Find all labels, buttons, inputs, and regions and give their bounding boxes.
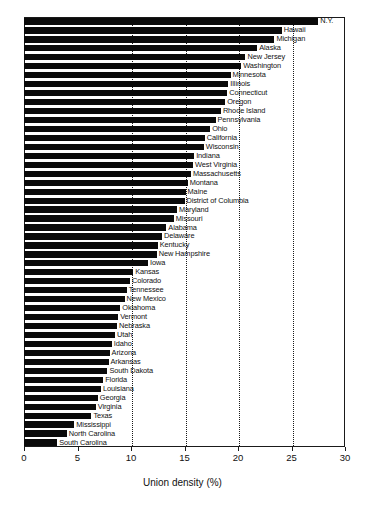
bar	[24, 323, 117, 329]
bar	[24, 45, 257, 51]
bar-label: Virginia	[98, 403, 122, 410]
bar	[24, 135, 205, 141]
bar	[24, 233, 162, 239]
bar-label: Wisconsin	[206, 143, 239, 150]
bar-label: South Dakota	[109, 367, 153, 374]
bar-label: Hawaii	[284, 26, 306, 33]
bar-label: Delaware	[164, 232, 194, 239]
bar-row	[24, 421, 345, 427]
bar-row	[24, 269, 345, 275]
bar	[24, 189, 186, 195]
bar	[24, 278, 130, 284]
bar-label: Arkansas	[111, 358, 141, 365]
bar-label: Tennessee	[129, 286, 164, 293]
bar-row	[24, 296, 345, 302]
bar-label: Maine	[188, 188, 208, 195]
bar-row	[24, 72, 345, 78]
bar	[24, 269, 133, 275]
bar-label: Alaska	[259, 44, 281, 51]
bar-row	[24, 171, 345, 177]
bar	[24, 180, 188, 186]
bar-row	[24, 404, 345, 410]
bar-label: Iowa	[150, 259, 165, 266]
bar	[24, 18, 318, 24]
bar-row	[24, 135, 345, 141]
bar-label: Missouri	[176, 215, 203, 222]
bar	[24, 81, 228, 87]
x-tick-mark-25	[292, 447, 293, 451]
bar-label: South Carolina	[59, 439, 107, 446]
bar-row	[24, 63, 345, 69]
x-tick-mark-20	[238, 447, 239, 451]
bar	[24, 368, 107, 374]
bar-row	[24, 350, 345, 356]
bar-label: Washington	[243, 62, 281, 69]
bar-label: Rhode Island	[223, 107, 265, 114]
x-tick-mark-15	[185, 447, 186, 451]
x-tick-label-20: 20	[233, 453, 244, 463]
bar-row	[24, 126, 345, 132]
bar-label: Mississippi	[76, 421, 111, 428]
bar	[24, 421, 74, 427]
bar-label: Oklahoma	[122, 304, 155, 311]
bar	[24, 350, 110, 356]
bar-label: Kansas	[135, 268, 159, 275]
bar	[24, 314, 118, 320]
bar	[24, 224, 166, 230]
bar-label: North Carolina	[69, 430, 115, 437]
bar-label: New Jersey	[247, 53, 285, 60]
bar	[24, 126, 210, 132]
bar-label: Indiana	[196, 152, 220, 159]
bar-label: Texas	[93, 412, 112, 419]
bar-row	[24, 117, 345, 123]
bar-label: New Hampshire	[159, 250, 210, 257]
bar-row	[24, 189, 345, 195]
bar-row	[24, 90, 345, 96]
x-axis-title: Union density (%)	[0, 477, 365, 488]
bar-row	[24, 54, 345, 60]
bar-label: Ohio	[212, 125, 227, 132]
bar-label: Idaho	[114, 340, 132, 347]
x-tick-label-10: 10	[126, 453, 137, 463]
bar-row	[24, 395, 345, 401]
bar	[24, 198, 185, 204]
x-tick-mark-5	[78, 447, 79, 451]
bar-label: Louisiana	[103, 385, 134, 392]
bar-label: N.Y.	[320, 17, 333, 24]
bar	[24, 242, 158, 248]
bar	[24, 171, 191, 177]
bar-label: Pennsylvania	[218, 116, 261, 123]
x-tick-label-0: 0	[21, 453, 26, 463]
bar-row	[24, 341, 345, 347]
bar-label: Nebraska	[119, 322, 150, 329]
bar	[24, 117, 216, 123]
x-tick-label-15: 15	[179, 453, 190, 463]
bar	[24, 144, 204, 150]
bar-label: Georgia	[100, 394, 126, 401]
bar-row	[24, 287, 345, 293]
bar	[24, 395, 98, 401]
bar-row	[24, 81, 345, 87]
bar	[24, 215, 174, 221]
bar-row	[24, 162, 345, 168]
bar	[24, 332, 115, 338]
bar-row	[24, 198, 345, 204]
x-tick-label-30: 30	[340, 453, 351, 463]
bar	[24, 430, 67, 436]
bar-label: Arizona	[112, 349, 136, 356]
bar-row	[24, 323, 345, 329]
bar-label: Utah	[117, 331, 132, 338]
bar-label: Oregon	[227, 98, 251, 105]
bar	[24, 90, 227, 96]
bar	[24, 260, 148, 266]
bar-row	[24, 413, 345, 419]
x-tick-mark-10	[131, 447, 132, 451]
bar-row	[24, 278, 345, 284]
bar-row	[24, 99, 345, 105]
bar-row	[24, 108, 345, 114]
bar-label: Connecticut	[229, 89, 267, 96]
bar	[24, 377, 103, 383]
bar	[24, 287, 127, 293]
bar-row	[24, 359, 345, 365]
bar-row	[24, 368, 345, 374]
